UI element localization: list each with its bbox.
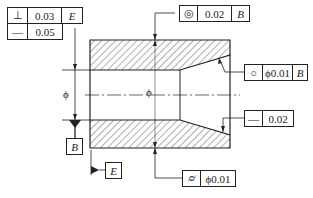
concentricity-icon: ◎	[180, 6, 198, 21]
straightness-frame-right: — 0.02	[244, 110, 294, 127]
datum-e-box: E	[105, 162, 122, 179]
concentricity-frame: ◎ 0.02 B	[179, 5, 250, 22]
circularity-icon: ○	[245, 65, 263, 80]
straightness-icon: —	[8, 24, 28, 39]
cylindricity-icon: ⌭	[183, 171, 201, 186]
tolerance-value: ϕ0.01	[201, 171, 235, 186]
cylindricity-frame: ⌭ ϕ0.01	[182, 170, 236, 187]
datum-ref: B	[293, 65, 307, 80]
straightness-icon: —	[245, 111, 263, 126]
straightness-frame-top: — 0.05	[7, 23, 63, 40]
perpendicular-icon: ⊥	[8, 8, 28, 23]
tolerance-value: ϕ0.01	[263, 65, 293, 80]
tolerance-value: 0.05	[28, 24, 62, 39]
tolerance-value: 0.02	[263, 111, 293, 126]
tolerance-value: 0.02	[198, 6, 232, 21]
datum-b-box: B	[66, 138, 83, 155]
datum-ref: B	[232, 6, 249, 21]
diameter-label-left: ϕ	[63, 88, 69, 100]
perpendicularity-frame: ⊥ 0.03 E	[7, 7, 83, 24]
circularity-frame: ○ ϕ0.01 B	[244, 64, 308, 81]
datum-ref: E	[62, 8, 82, 23]
tolerance-value: 0.03	[28, 8, 62, 23]
diameter-label-center: ϕ	[146, 86, 152, 98]
